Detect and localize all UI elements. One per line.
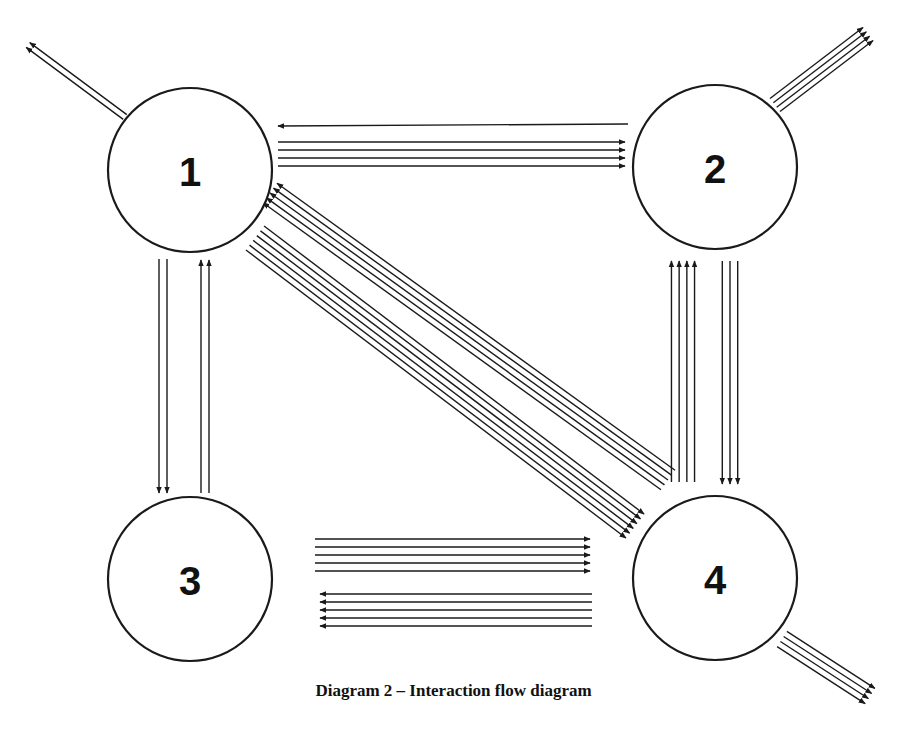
- flow-1-to-outside: [26, 43, 127, 120]
- flow-arrow: [773, 32, 866, 103]
- flow-3-to-4: [315, 539, 590, 571]
- flow-4-to-1: [263, 183, 675, 489]
- flow-1-to-2: [278, 142, 625, 166]
- flow-arrow: [770, 27, 863, 98]
- flow-arrow: [266, 198, 664, 485]
- flow-4-to-2: [671, 261, 694, 482]
- flow-arrow: [278, 124, 628, 126]
- node-2-label: 2: [704, 147, 726, 191]
- nodes: 1 2 3 4: [108, 85, 797, 661]
- flow-arrow: [263, 203, 661, 490]
- flow-4-to-3: [320, 594, 592, 626]
- node-2: 2: [633, 85, 797, 249]
- interaction-flow-diagram: 1 2 3 4: [0, 0, 907, 733]
- flow-arrow: [253, 240, 633, 528]
- flow-2-to-1: [278, 124, 628, 126]
- diagram-caption: Diagram 2 – Interaction flow diagram: [0, 681, 907, 701]
- flow-2-to-4: [722, 261, 737, 484]
- flow-arrow: [787, 631, 875, 688]
- flow-arrow: [264, 226, 644, 514]
- flow-1-to-4: [246, 226, 644, 538]
- flow-arrow: [257, 236, 637, 524]
- flow-arrow: [277, 183, 675, 470]
- flow-2-to-outside: [770, 27, 873, 111]
- node-1: 1: [108, 88, 272, 252]
- node-3: 3: [108, 497, 272, 661]
- flow-1-to-3: [159, 259, 167, 493]
- flow-arrow: [250, 245, 630, 533]
- node-4-label: 4: [704, 558, 727, 602]
- node-1-label: 1: [179, 150, 201, 194]
- node-3-label: 3: [179, 559, 201, 603]
- flow-3-to-1: [201, 260, 209, 493]
- flow-arrow: [270, 193, 668, 480]
- flow-arrow: [30, 43, 127, 115]
- flow-arrow: [777, 36, 870, 107]
- flow-arrow: [26, 47, 123, 119]
- flow-arrow: [780, 41, 873, 112]
- flow-arrow: [274, 188, 672, 475]
- node-4: 4: [633, 496, 797, 660]
- flow-arrow: [260, 231, 640, 519]
